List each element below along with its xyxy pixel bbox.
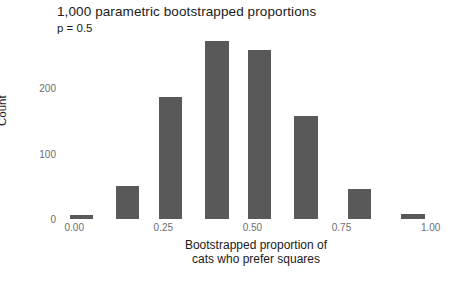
x-axis-tick-labels: 0.000.250.500.751.00 [60,222,452,238]
y-tick-label: 100 [39,148,56,159]
x-tick-label: 0.50 [243,222,262,233]
x-tick-label: 0.00 [65,222,84,233]
x-axis-label-line2: cats who prefer squares [60,252,452,266]
y-tick-label: 200 [39,83,56,94]
bar [248,50,272,219]
bar [70,215,94,219]
bar-chart-figure: 1,000 parametric bootstrapped proportion… [0,0,463,281]
bar [294,116,318,219]
chart-title: 1,000 parametric bootstrapped proportion… [57,4,316,19]
bar [401,214,425,219]
y-tick-label: 0 [50,214,56,225]
y-axis-tick-labels: 0100200 [0,36,56,219]
chart-subtitle: p = 0.5 [57,22,93,34]
bar [116,186,140,219]
x-axis-label: Bootstrapped proportion of cats who pref… [60,238,452,266]
plot-area [60,36,452,219]
bar [159,97,183,219]
x-tick-label: 0.25 [154,222,173,233]
bar [348,189,372,219]
bar [205,41,229,219]
x-axis-label-line1: Bootstrapped proportion of [60,238,452,252]
x-tick-label: 1.00 [421,222,440,233]
x-tick-label: 0.75 [332,222,351,233]
